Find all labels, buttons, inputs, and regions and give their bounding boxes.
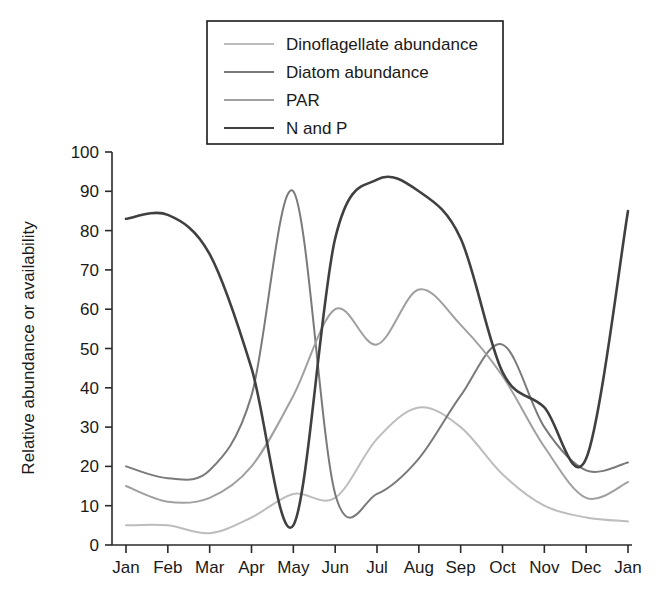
chart-legend: Dinoflagellate abundanceDiatom abundance… (207, 21, 503, 144)
x-tick-label: Apr (238, 558, 265, 577)
legend-label-1: Diatom abundance (286, 63, 429, 82)
y-tick-label: 80 (80, 222, 99, 241)
y-tick-label: 100 (71, 143, 99, 162)
y-axis-ticks (105, 152, 112, 545)
x-axis-tick-labels: JanFebMarAprMayJunJulAugSepOctNovDecJan (112, 558, 641, 577)
x-tick-label: Nov (529, 558, 560, 577)
data-series-group (126, 177, 628, 534)
x-tick-label: Feb (153, 558, 182, 577)
y-axis-title: Relative abundance or availability (19, 221, 38, 475)
series-line-n-and-p (126, 177, 628, 528)
y-tick-label: 30 (80, 418, 99, 437)
y-tick-label: 60 (80, 300, 99, 319)
series-line-par (126, 289, 628, 503)
y-tick-label: 0 (90, 536, 99, 555)
x-tick-label: Jan (112, 558, 139, 577)
legend-label-0: Dinoflagellate abundance (286, 35, 478, 54)
y-tick-label: 50 (80, 340, 99, 359)
y-tick-label: 40 (80, 379, 99, 398)
y-tick-label: 20 (80, 457, 99, 476)
x-axis-ticks (126, 545, 628, 553)
y-tick-label: 90 (80, 182, 99, 201)
y-tick-label: 10 (80, 497, 99, 516)
x-tick-label: Jan (614, 558, 641, 577)
x-tick-label: May (277, 558, 310, 577)
x-tick-label: Oct (489, 558, 516, 577)
y-axis-tick-labels: 0102030405060708090100 (71, 143, 99, 555)
line-chart: 0102030405060708090100 JanFebMarAprMayJu… (0, 0, 666, 613)
y-tick-label: 70 (80, 261, 99, 280)
x-tick-label: Jun (321, 558, 348, 577)
legend-label-2: PAR (286, 91, 320, 110)
series-line-dinoflagellate-abundance (126, 407, 628, 533)
legend-label-3: N and P (286, 119, 347, 138)
chart-figure: 0102030405060708090100 JanFebMarAprMayJu… (0, 0, 666, 613)
x-tick-label: Mar (195, 558, 225, 577)
x-tick-label: Jul (366, 558, 388, 577)
x-tick-label: Sep (446, 558, 476, 577)
x-tick-label: Dec (571, 558, 602, 577)
x-tick-label: Aug (404, 558, 434, 577)
